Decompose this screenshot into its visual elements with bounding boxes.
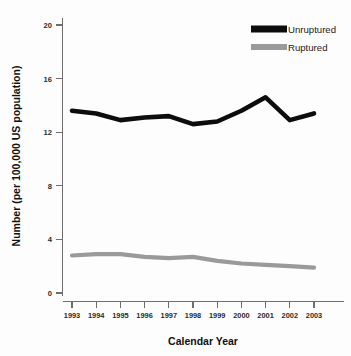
legend-label-ruptured: Ruptured bbox=[288, 42, 327, 53]
y-tick-label: 16 bbox=[44, 75, 52, 84]
y-tick-label: 0 bbox=[48, 289, 52, 298]
x-tick-label: 2001 bbox=[257, 311, 273, 320]
x-axis-ticks: 1993199419951996199719981999200020012002… bbox=[64, 302, 322, 321]
y-tick-label: 20 bbox=[44, 21, 52, 30]
y-tick-label: 12 bbox=[44, 128, 52, 137]
line-chart: 048121620 199319941995199619971998199920… bbox=[0, 0, 351, 356]
legend-label-unruptured: Unruptured bbox=[288, 24, 336, 35]
x-tick-label: 1993 bbox=[64, 311, 80, 320]
y-axis-ticks: 048121620 bbox=[44, 21, 63, 298]
x-tick-label: 1998 bbox=[185, 311, 201, 320]
x-tick-label: 2000 bbox=[233, 311, 249, 320]
y-tick-label: 4 bbox=[48, 235, 53, 244]
x-tick-label: 2002 bbox=[282, 311, 298, 320]
x-tick-label: 1995 bbox=[112, 311, 128, 320]
x-tick-label: 1996 bbox=[136, 311, 152, 320]
x-axis-title: Calendar Year bbox=[168, 335, 238, 347]
y-tick-label: 8 bbox=[48, 182, 52, 191]
x-tick-label: 1994 bbox=[88, 311, 105, 320]
chart-figure: 048121620 199319941995199619971998199920… bbox=[0, 0, 351, 356]
x-tick-label: 2003 bbox=[306, 311, 322, 320]
y-axis-title: Number (per 100,000 US population) bbox=[10, 66, 22, 247]
x-tick-label: 1997 bbox=[161, 311, 177, 320]
x-tick-label: 1999 bbox=[209, 311, 225, 320]
